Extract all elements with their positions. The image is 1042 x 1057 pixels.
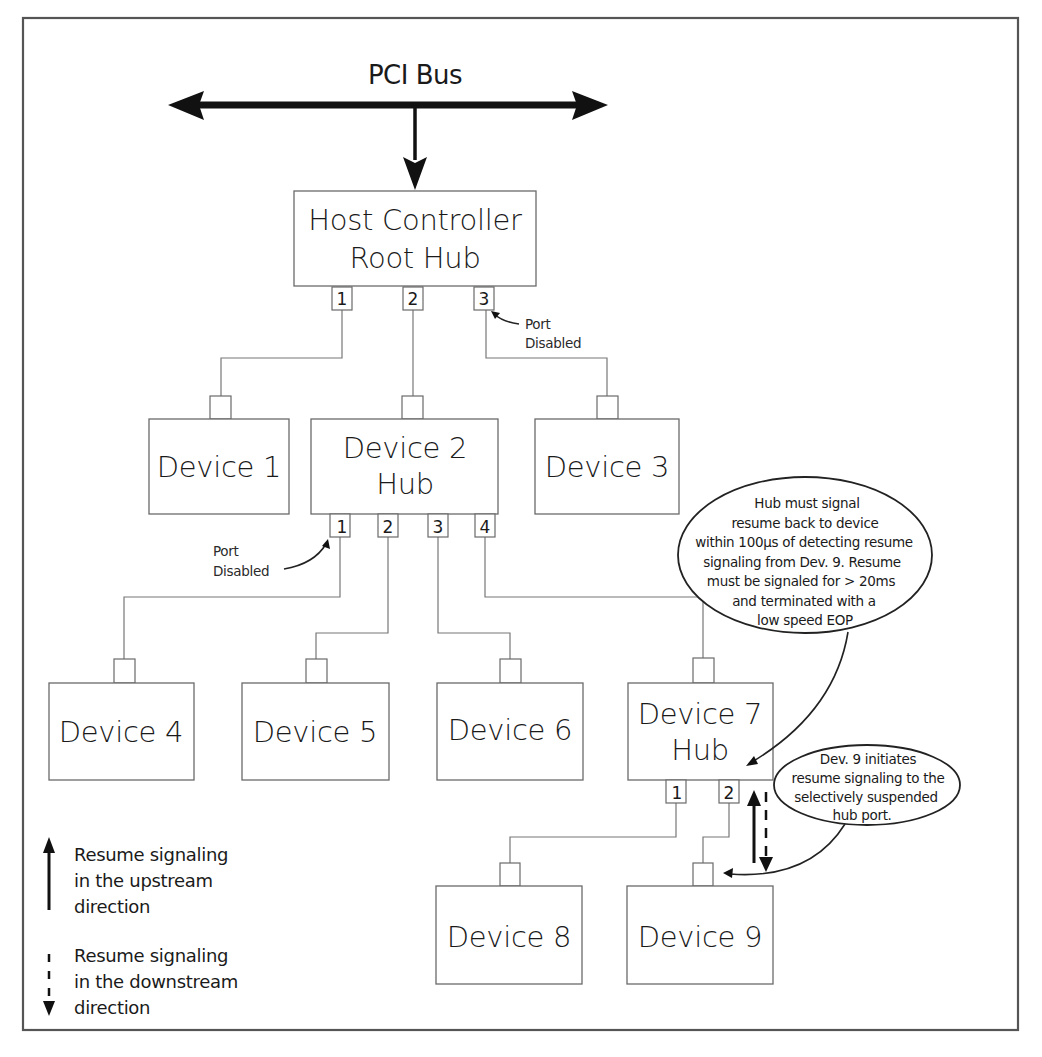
svg-text:and terminated with a: and terminated with a: [732, 593, 876, 609]
root-hub-line2: Root Hub: [349, 241, 480, 275]
svg-text:selectively suspended: selectively suspended: [794, 789, 937, 805]
bus-down-arrow-icon: [403, 157, 427, 190]
legend-upstream: Resume signaling in the upstream directi…: [43, 837, 228, 917]
device-9[interactable]: Device 9: [627, 863, 773, 984]
resume-signal-arrows: [747, 790, 773, 872]
pci-bus: PCI Bus: [168, 60, 608, 190]
svg-text:1: 1: [672, 783, 683, 803]
device2-hub-port-3[interactable]: 3: [428, 514, 448, 537]
svg-text:Hub: Hub: [671, 733, 729, 767]
callout-arrow-icon: [723, 868, 733, 878]
root-hub-port-3[interactable]: 3: [474, 287, 494, 310]
host-controller-root-hub[interactable]: Host Controller Root Hub: [294, 191, 536, 286]
root-hub-line1: Host Controller: [308, 203, 522, 237]
root-hub-port-2[interactable]: 2: [403, 287, 423, 310]
svg-text:Device 2: Device 2: [343, 431, 467, 465]
device-4[interactable]: Device 4: [49, 659, 194, 780]
svg-text:Device 4: Device 4: [59, 715, 183, 749]
device7-hub-port-2[interactable]: 2: [719, 780, 739, 803]
svg-text:2: 2: [724, 783, 735, 803]
device-2-hub[interactable]: Device 2 Hub: [311, 396, 498, 514]
svg-text:in the downstream: in the downstream: [74, 971, 238, 992]
svg-text:3: 3: [479, 289, 490, 309]
device-3[interactable]: Device 3: [535, 396, 679, 514]
svg-text:3: 3: [433, 517, 444, 537]
svg-text:direction: direction: [74, 997, 150, 1018]
device-5[interactable]: Device 5: [242, 659, 389, 780]
svg-text:Device 7: Device 7: [638, 697, 762, 731]
svg-text:2: 2: [408, 289, 419, 309]
device2-port1-disabled-note: Port Disabled: [213, 539, 330, 579]
pci-bus-label: PCI Bus: [368, 60, 462, 90]
svg-text:Device 6: Device 6: [448, 713, 572, 747]
downstream-arrow-icon: [43, 1001, 55, 1016]
device2-hub-port-1[interactable]: 1: [330, 514, 350, 537]
upstream-arrow-icon: [43, 837, 55, 853]
svg-text:1: 1: [337, 289, 348, 309]
svg-text:Resume signaling: Resume signaling: [74, 844, 228, 865]
svg-text:Device 5: Device 5: [253, 715, 377, 749]
svg-text:within 100µs of detecting resu: within 100µs of detecting resume: [695, 534, 913, 550]
usb-resume-signaling-diagram: PCI Bus Host Controller Root Hub 1 2: [0, 0, 1042, 1057]
bus-right-arrow-icon: [572, 91, 608, 120]
svg-text:2: 2: [383, 517, 394, 537]
svg-text:Resume signaling: Resume signaling: [74, 945, 228, 966]
svg-text:Disabled: Disabled: [525, 335, 581, 351]
svg-text:Dev. 9 initiates: Dev. 9 initiates: [820, 751, 917, 767]
svg-text:Device 3: Device 3: [545, 450, 669, 484]
legend: Resume signaling in the upstream directi…: [43, 837, 238, 1018]
svg-text:1: 1: [337, 517, 348, 537]
svg-text:in the upstream: in the upstream: [74, 870, 213, 891]
svg-text:hub port.: hub port.: [832, 807, 891, 823]
svg-text:4: 4: [480, 517, 491, 537]
svg-text:resume signaling to the: resume signaling to the: [791, 770, 944, 786]
device2-hub-port-2[interactable]: 2: [378, 514, 398, 537]
device2-hub-port-4[interactable]: 4: [475, 514, 495, 537]
svg-text:Hub: Hub: [376, 467, 434, 501]
svg-text:Device 1: Device 1: [157, 450, 281, 484]
svg-text:direction: direction: [74, 896, 150, 917]
legend-downstream: Resume signaling in the downstream direc…: [43, 945, 238, 1018]
device-1[interactable]: Device 1: [149, 396, 289, 514]
svg-text:Port: Port: [213, 543, 239, 559]
svg-text:low speed EOP: low speed EOP: [757, 612, 853, 628]
root-port3-disabled-note: Port Disabled: [491, 311, 581, 351]
svg-text:must be signaled for > 20ms: must be signaled for > 20ms: [707, 573, 896, 589]
device-8[interactable]: Device 8: [436, 863, 582, 984]
bus-left-arrow-icon: [168, 91, 204, 120]
upstream-arrow-icon: [747, 790, 761, 806]
svg-text:Disabled: Disabled: [213, 563, 269, 579]
svg-text:signaling from Dev. 9. Resume: signaling from Dev. 9. Resume: [703, 554, 901, 570]
svg-text:Hub must signal: Hub must signal: [754, 495, 859, 511]
device7-hub-port-1[interactable]: 1: [666, 780, 686, 803]
svg-text:Device 9: Device 9: [638, 920, 762, 954]
svg-text:resume back to device: resume back to device: [731, 515, 878, 531]
svg-text:Device 8: Device 8: [447, 920, 571, 954]
downstream-arrow-icon: [759, 857, 773, 872]
svg-text:Port: Port: [525, 316, 551, 332]
device-6[interactable]: Device 6: [437, 659, 583, 780]
root-hub-port-1[interactable]: 1: [332, 287, 352, 310]
